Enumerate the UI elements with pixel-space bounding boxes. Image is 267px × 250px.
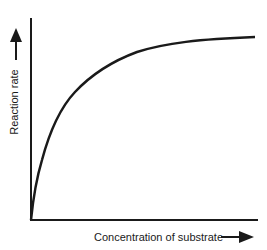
x-arrow-icon [221,231,254,243]
saturation-curve [31,37,255,220]
chart-canvas [0,0,267,250]
y-axis-label-container: Reaction rate [3,0,23,250]
y-axis-label: Reaction rate [8,47,20,157]
x-axis-label: Concentration of substrate [94,231,223,243]
